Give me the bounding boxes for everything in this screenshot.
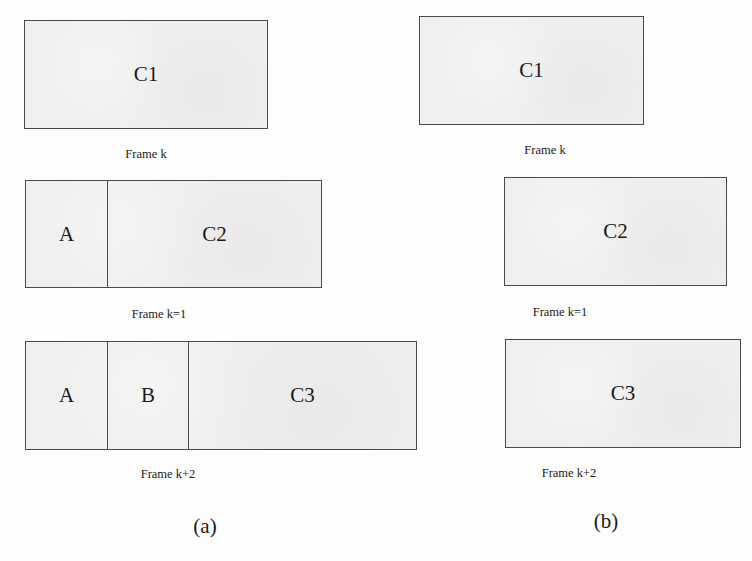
panel-a-frame-k-box: C1 xyxy=(24,20,268,129)
panel-a-frame-k-label: Frame k xyxy=(125,147,166,162)
region-c3: C3 xyxy=(506,340,740,447)
panel-a-frame-k1-label: Frame k=1 xyxy=(132,307,187,322)
panel-a-caption: (a) xyxy=(193,514,216,539)
region-c2: C2 xyxy=(505,178,726,285)
panel-b-frame-k-box: C1 xyxy=(419,16,644,125)
region-a: A xyxy=(26,181,107,287)
panel-a-frame-k2-label: Frame k+2 xyxy=(141,467,196,482)
panel-b-frame-k2-label: Frame k+2 xyxy=(542,466,597,481)
panel-a-frame-k1-box: A C2 xyxy=(25,180,322,288)
region-c3: C3 xyxy=(188,342,416,449)
panel-b-frame-k1-label: Frame k=1 xyxy=(533,305,588,320)
region-c1: C1 xyxy=(25,21,267,128)
region-b: B xyxy=(107,342,188,449)
region-a: A xyxy=(26,342,107,449)
panel-b-frame-k2-box: C3 xyxy=(505,339,741,448)
region-c2: C2 xyxy=(107,181,321,287)
panel-b-frame-k1-box: C2 xyxy=(504,177,727,286)
panel-a-frame-k2-box: A B C3 xyxy=(25,341,417,450)
region-c1: C1 xyxy=(420,17,643,124)
panel-b-caption: (b) xyxy=(594,509,619,534)
panel-b-frame-k-label: Frame k xyxy=(524,143,565,158)
